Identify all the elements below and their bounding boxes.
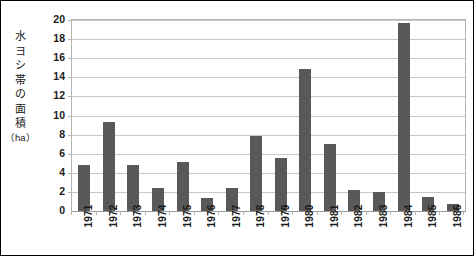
y-axis-tick-label: 2	[37, 185, 65, 197]
bar-slot	[121, 20, 146, 211]
x-axis-label-slot: 1978	[243, 216, 268, 256]
x-axis-tick-label: 1977	[231, 204, 242, 227]
x-axis-tick-label: 1975	[182, 204, 193, 227]
x-axis-tick-label: 1986	[452, 204, 463, 227]
y-axis-title-char: 帯	[5, 73, 35, 88]
x-axis-label-slot: 1972	[96, 216, 121, 256]
x-axis-tick-label: 1974	[157, 204, 168, 227]
y-axis-tick-label: 12	[37, 89, 65, 101]
y-axis-tick-label: 8	[37, 128, 65, 140]
bar-slot	[219, 20, 244, 211]
bar-slot	[391, 20, 416, 211]
x-axis-tick-label: 1985	[427, 204, 438, 227]
y-axis-tick-label: 0	[37, 204, 65, 216]
x-axis-label-slot: 1980	[292, 216, 317, 256]
y-axis-tick-label: 10	[37, 109, 65, 121]
y-axis-tick-label: 16	[37, 51, 65, 63]
y-axis-title-char: （ha）	[5, 131, 35, 144]
y-axis-tick-label: 6	[37, 147, 65, 159]
bar-chart-figure: 水ヨシ帯の面積（ha） 02468101214161820 1971197219…	[0, 0, 474, 256]
x-axis-tick-label: 1982	[353, 204, 364, 227]
x-axis-tick-label: 1980	[304, 204, 315, 227]
x-axis-label-slot: 1984	[390, 216, 415, 256]
x-axis-label-slot: 1986	[439, 216, 464, 256]
bar-slot	[72, 20, 97, 211]
y-axis-title-char: の	[5, 87, 35, 102]
x-axis-label-slot: 1982	[341, 216, 366, 256]
x-axis-label-slot: 1983	[366, 216, 391, 256]
y-axis-title-char: シ	[5, 58, 35, 73]
x-axis-label-slot: 1975	[169, 216, 194, 256]
bar-slot	[293, 20, 318, 211]
x-axis-label-slot: 1981	[317, 216, 342, 256]
bar-slot	[318, 20, 343, 211]
plot-area	[71, 19, 466, 212]
y-axis-tick-labels: 02468101214161820	[37, 1, 65, 256]
x-axis-tick-label: 1976	[206, 204, 217, 227]
y-axis-title-char: 面	[5, 102, 35, 117]
bar-slot	[440, 20, 465, 211]
bar-slot	[367, 20, 392, 211]
x-axis-label-slot: 1974	[145, 216, 170, 256]
x-axis-tick-label: 1979	[280, 204, 291, 227]
x-axis-label-slot: 1977	[218, 216, 243, 256]
x-axis-tick-label: 1981	[329, 204, 340, 227]
y-axis-title-char: 積	[5, 116, 35, 131]
y-axis-tick-label: 20	[37, 13, 65, 25]
x-axis-tick-label: 1984	[403, 204, 414, 227]
x-axis-tick-labels: 1971197219731974197519761977197819791980…	[71, 216, 464, 256]
y-axis-title-char: ヨ	[5, 44, 35, 59]
x-axis-tick-label: 1971	[83, 204, 94, 227]
bar-series	[72, 20, 465, 211]
bar	[275, 158, 287, 211]
x-axis-label-slot: 1971	[71, 216, 96, 256]
x-axis-label-slot: 1973	[120, 216, 145, 256]
bar-slot	[269, 20, 294, 211]
bar-slot	[342, 20, 367, 211]
x-axis-label-slot: 1985	[415, 216, 440, 256]
bar-slot	[170, 20, 195, 211]
bar	[250, 136, 262, 211]
bar-slot	[244, 20, 269, 211]
x-axis-tick-label: 1972	[108, 204, 119, 227]
x-axis-label-slot: 1976	[194, 216, 219, 256]
bar-slot	[416, 20, 441, 211]
bar	[324, 144, 336, 211]
y-axis-tick-label: 4	[37, 166, 65, 178]
x-axis-tick-label: 1978	[255, 204, 266, 227]
y-axis-tick-label: 18	[37, 32, 65, 44]
y-axis-tick-label: 14	[37, 70, 65, 82]
x-axis-tick-label: 1983	[378, 204, 389, 227]
bar	[103, 122, 115, 211]
y-axis-title-char: 水	[5, 29, 35, 44]
bar-slot	[97, 20, 122, 211]
y-axis-title: 水ヨシ帯の面積（ha）	[5, 29, 35, 144]
bar-slot	[195, 20, 220, 211]
x-axis-tick-label: 1973	[132, 204, 143, 227]
bar-slot	[146, 20, 171, 211]
x-axis-label-slot: 1979	[268, 216, 293, 256]
bar	[299, 69, 311, 211]
bar	[398, 23, 410, 211]
